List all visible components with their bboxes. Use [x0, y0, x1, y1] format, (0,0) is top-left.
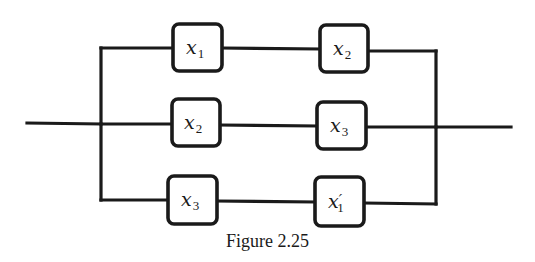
- switch-bottom-1: x3: [168, 176, 217, 224]
- switch-top-2: x2: [320, 25, 368, 72]
- bottom-branch-wire-2: [217, 201, 315, 202]
- switch-top-1: x1: [173, 24, 222, 71]
- switch-bottom-2: x′1: [315, 177, 364, 226]
- top-branch-wire-2: [222, 48, 320, 49]
- switch-middle-2: x3: [317, 102, 366, 149]
- bottom-branch-wire-3: [364, 203, 436, 204]
- input-wire: [27, 123, 101, 124]
- figure-caption: Figure 2.25: [0, 231, 535, 252]
- middle-branch-wire-2: [220, 125, 317, 126]
- circuit-diagram: x1 x2 x2 x3 x3 x′1: [0, 0, 535, 262]
- switch-middle-1: x2: [172, 99, 220, 146]
- svg-text:x′1: x′1: [328, 190, 344, 215]
